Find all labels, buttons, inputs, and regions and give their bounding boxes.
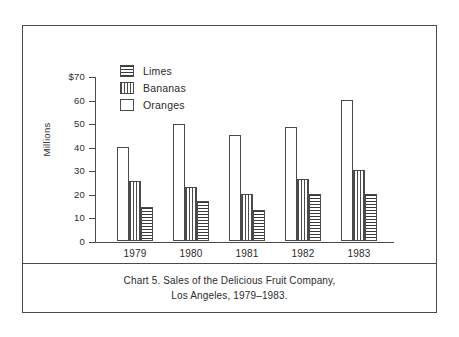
plot-panel: $706050403020100 Millions 19791980198119… [23, 26, 436, 264]
x-tick-label: 1981 [224, 248, 270, 259]
x-tick-label: 1979 [112, 248, 158, 259]
caption-panel: Chart 5. Sales of the Delicious Fruit Co… [23, 264, 436, 312]
bar-limes-1979 [141, 207, 153, 241]
bar-limes-1983 [365, 194, 377, 241]
bar-oranges-1981 [229, 135, 241, 241]
x-tick-label: 1983 [336, 248, 382, 259]
legend-label: Oranges [143, 99, 185, 111]
bar-limes-1982 [309, 194, 321, 241]
bar-oranges-1979 [117, 147, 129, 241]
legend-item-limes: Limes [120, 62, 186, 79]
legend-swatch-limes [120, 65, 134, 77]
bar-bananas-1980 [185, 187, 197, 241]
bar-bananas-1979 [129, 181, 141, 241]
bar-limes-1981 [253, 210, 265, 241]
bar-group [229, 76, 265, 241]
legend-swatch-bananas [120, 82, 134, 94]
bar-group [285, 76, 321, 241]
legend-item-bananas: Bananas [120, 79, 186, 96]
bar-group [341, 76, 377, 241]
bar-limes-1980 [197, 201, 209, 241]
x-tick-label: 1980 [168, 248, 214, 259]
chart-caption: Chart 5. Sales of the Delicious Fruit Co… [124, 273, 336, 303]
legend-label: Limes [143, 65, 172, 77]
bar-bananas-1982 [297, 179, 309, 241]
chart-figure: $706050403020100 Millions 19791980198119… [22, 25, 437, 313]
bar-oranges-1980 [173, 124, 185, 241]
chart-legend: LimesBananasOranges [120, 62, 186, 113]
bar-oranges-1983 [341, 100, 353, 241]
caption-line-1: Chart 5. Sales of the Delicious Fruit Co… [124, 275, 336, 286]
bars-layer [23, 26, 436, 263]
bar-bananas-1983 [353, 170, 365, 241]
x-tick-label: 1982 [280, 248, 326, 259]
bar-oranges-1982 [285, 127, 297, 241]
legend-item-oranges: Oranges [120, 96, 186, 113]
legend-label: Bananas [143, 82, 186, 94]
caption-line-2: Los Angeles, 1979–1983. [124, 288, 336, 303]
legend-swatch-oranges [120, 99, 134, 111]
bar-bananas-1981 [241, 194, 253, 241]
